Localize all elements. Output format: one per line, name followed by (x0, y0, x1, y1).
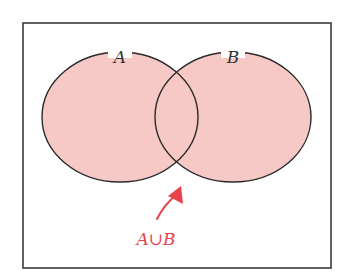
set-b-label: B (226, 47, 240, 67)
set-b-fill (155, 52, 311, 182)
set-a-label: A (112, 47, 126, 67)
union-label: A∪B (134, 229, 175, 249)
venn-diagram: A B A∪B (0, 0, 350, 278)
